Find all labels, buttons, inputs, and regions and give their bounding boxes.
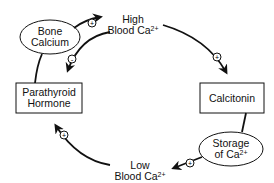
parathyroid-line2: Hormone: [16, 98, 82, 109]
storage-line2: of Ca2+: [199, 149, 263, 160]
svg-text:+: +: [90, 20, 94, 27]
parathyroid-hormone-label: Parathyroid Hormone: [16, 87, 82, 109]
plus-sign-icon: +: [213, 53, 221, 61]
high-blood-ca-line2: Blood Ca2+: [103, 25, 163, 36]
edge-calcitonin-to-storage: [242, 113, 246, 132]
svg-text:+: +: [188, 160, 192, 167]
plus-sign-icon: +: [60, 131, 68, 139]
edge-high-to-calcitonin: [163, 25, 226, 72]
high-blood-ca-label: High Blood Ca2+: [103, 14, 163, 36]
edge-parathyroid-to-bone: [35, 54, 42, 83]
plus-sign-icon: +: [186, 159, 194, 167]
calcitonin-label: Calcitonin: [200, 93, 264, 104]
low-blood-ca-line2: Blood Ca2+: [110, 171, 170, 182]
storage-label: Storage of Ca2+: [199, 138, 263, 160]
bone-calcium-label: Bone Calcium: [20, 26, 80, 48]
minus-sign-icon: -: [68, 55, 76, 64]
svg-text:-: -: [71, 55, 74, 64]
bone-calcium-line2: Calcium: [20, 37, 80, 48]
svg-text:+: +: [62, 132, 66, 139]
low-blood-ca-label: Low Blood Ca2+: [110, 160, 170, 182]
plus-sign-icon: +: [88, 19, 96, 27]
svg-text:+: +: [215, 54, 219, 61]
